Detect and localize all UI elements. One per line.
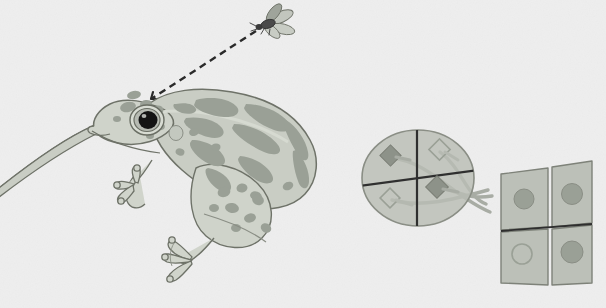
frog-tympanum — [169, 126, 183, 141]
tectum-target-upper-left — [514, 189, 534, 209]
tectum-panel-lower-right — [552, 225, 592, 285]
retina-label: retina — [418, 229, 439, 238]
frog-retinotectal-diagram: retina optic tectum retinotectal axon pr… — [0, 0, 606, 308]
frog-pupil — [139, 111, 158, 129]
figure-container: retina optic tectum retinotectal axon pr… — [0, 0, 606, 308]
tectum-panel-lower-left — [501, 229, 548, 285]
tectum-target-upper-right — [562, 184, 583, 205]
figure-title: Frog visual system: retinotopic projecti… — [8, 293, 248, 302]
frog-eye — [130, 105, 164, 135]
tectum — [501, 161, 592, 285]
tectum-label: optic tectum — [546, 291, 589, 300]
tectum-panel-upper-left — [501, 168, 548, 230]
tectum-panel-upper-right — [552, 161, 592, 227]
projection-label: retinotectal axon projection — [460, 241, 556, 250]
frog-eye-highlight — [142, 114, 147, 118]
tectum-target-lower-right — [561, 241, 583, 263]
